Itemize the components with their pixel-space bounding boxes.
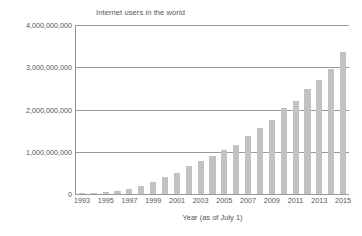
plot-area [76,25,349,194]
bar-2009 [269,120,275,194]
x-tick-label: 2003 [193,196,209,205]
x-axis-tick-labels: 1993199519971999200120032005200720092011… [76,196,349,210]
bar-2002 [186,166,192,194]
bar-1995 [103,192,109,194]
bars-series [76,25,349,194]
bar-2013 [316,80,322,194]
bar-2011 [293,101,299,194]
x-axis-label: Year (as of July 1) [76,213,349,222]
x-tick-label: 2011 [288,196,303,205]
bar-1999 [150,182,156,194]
bar-1998 [138,186,144,194]
x-tick-label: 2007 [240,196,256,205]
y-axis-tick-labels: 01,000,000,0002,000,000,0003,000,000,000… [0,0,72,236]
bar-2010 [281,108,287,194]
x-tick-label: 2005 [216,196,232,205]
bar-2015 [340,52,346,194]
x-tick-label: 2013 [311,196,327,205]
chart-title: Internet users in the world [96,8,185,17]
bar-2005 [221,150,227,194]
x-tick-label: 1995 [98,196,114,205]
y-tick-label: 0 [4,190,72,199]
bar-2014 [328,69,334,194]
y-tick-label: 1,000,000,000 [4,148,72,157]
bar-2012 [304,89,310,194]
y-tick-label: 2,000,000,000 [4,106,72,115]
bar-1993 [79,193,85,194]
bar-1994 [91,193,97,194]
bar-2003 [198,161,204,194]
gridline-0 [76,194,349,195]
bar-2001 [174,173,180,194]
x-tick-label: 1997 [121,196,137,205]
x-tick-label: 1999 [145,196,161,205]
y-tick-label: 4,000,000,000 [4,21,72,30]
internet-users-bar-chart: Internet users in the world 01,000,000,0… [0,0,362,236]
bar-1997 [126,189,132,194]
y-tick-label: 3,000,000,000 [4,63,72,72]
bar-2006 [233,145,239,194]
x-tick-label: 2009 [264,196,280,205]
x-tick-label: 2001 [169,196,185,205]
x-tick-label: 1993 [74,196,90,205]
bar-2008 [257,128,263,194]
bar-2004 [209,156,215,194]
x-tick-label: 2015 [335,196,351,205]
bar-2007 [245,136,251,194]
bar-2000 [162,177,168,194]
bar-1996 [114,191,120,194]
